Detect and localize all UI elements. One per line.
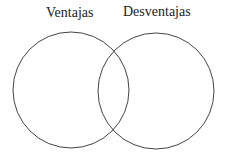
venn-diagram — [0, 0, 227, 162]
label-ventajas: Ventajas — [46, 5, 93, 21]
label-desventajas: Desventajas — [123, 4, 191, 20]
circle-ventajas — [13, 32, 129, 148]
circle-desventajas — [98, 33, 214, 149]
